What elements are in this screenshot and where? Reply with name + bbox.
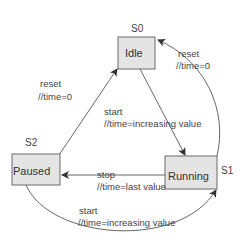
state-idle: Idle S0 xyxy=(118,23,155,69)
state-paused-id: S2 xyxy=(25,137,38,148)
label-paused-running-action: //time=increasing value xyxy=(78,217,175,228)
state-running-id: S1 xyxy=(221,165,234,176)
label-paused-idle-action: //time=0 xyxy=(38,91,72,102)
state-diagram: Idle S0 Running S1 Paused S2 start //tim… xyxy=(0,0,245,248)
state-running: Running S1 xyxy=(165,156,234,189)
state-running-label: Running xyxy=(168,170,209,182)
state-idle-label: Idle xyxy=(125,47,143,59)
label-running-paused-event: stop xyxy=(97,169,115,180)
label-paused-idle-event: reset xyxy=(40,78,61,89)
label-running-paused-action: //time=last value xyxy=(97,181,166,192)
edge-idle-to-running xyxy=(140,69,185,155)
label-idle-running-event: start xyxy=(104,106,123,117)
label-running-idle-event: reset xyxy=(178,48,199,59)
label-running-idle-action: //time=0 xyxy=(176,60,210,71)
state-idle-id: S0 xyxy=(131,23,144,34)
state-paused-label: Paused xyxy=(13,165,50,177)
label-paused-running-event: start xyxy=(79,205,98,216)
state-paused: Paused S2 xyxy=(12,137,60,185)
label-idle-running-action: //time=increasing value xyxy=(104,118,201,129)
